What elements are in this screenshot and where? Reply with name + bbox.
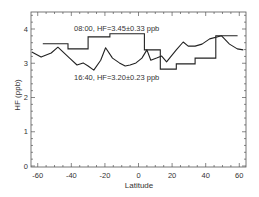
plot-frame <box>31 12 246 167</box>
y-tick-label: 3 <box>24 59 28 68</box>
x-tick-label: 40 <box>202 171 210 180</box>
x-tick-label: 60 <box>235 171 243 180</box>
x-tick-label: -20 <box>99 171 110 180</box>
y-axis-label: HF (ppb) <box>13 79 22 111</box>
x-axis-ticks <box>38 12 240 167</box>
x-tick-label: 0 <box>136 171 140 180</box>
y-tick-label: 4 <box>24 25 28 34</box>
hf-latitude-chart: -60-40-200204060 01234 08:00, HF=3.45±0.… <box>0 0 259 197</box>
y-tick-label: 0 <box>24 162 28 171</box>
y-tick-label: 1 <box>24 127 28 136</box>
y-tick-label: 2 <box>24 93 28 102</box>
series-0800-step-line <box>43 34 238 69</box>
annotation-0800: 08:00, HF=3.45±0.33 ppb <box>74 24 159 33</box>
x-tick-label: 20 <box>168 171 176 180</box>
annotation-1640: 16:40, HF=3.20±0.23 ppb <box>74 73 159 82</box>
x-tick-label: -60 <box>32 171 43 180</box>
x-axis-label: Latitude <box>125 181 154 190</box>
y-axis-tick-labels: 01234 <box>24 25 28 171</box>
x-axis-tick-labels: -60-40-200204060 <box>32 171 243 180</box>
x-tick-label: -40 <box>66 171 77 180</box>
series-1640-curve <box>32 36 244 70</box>
